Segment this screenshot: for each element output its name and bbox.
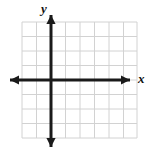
x-axis-label: x [138, 72, 145, 85]
axis-arrowhead-left [10, 75, 19, 84]
axis-arrowhead-down [46, 138, 55, 147]
axis-lines [0, 0, 157, 162]
axes-group [10, 15, 130, 147]
axis-arrowhead-right [121, 75, 130, 84]
axis-arrowhead-up [46, 15, 55, 24]
y-axis-label: y [41, 2, 47, 15]
coordinate-grid-figure: y x [0, 0, 157, 162]
